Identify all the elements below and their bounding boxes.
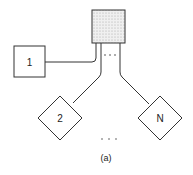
link-hub-to-node-n [120, 43, 149, 104]
caption: (a) [101, 153, 112, 163]
node-1: 1 [14, 46, 45, 77]
star-topology-diagram: 1 2 N (a) [0, 0, 193, 175]
link-hub-to-node-1 [45, 43, 96, 62]
node-n-label: N [156, 113, 163, 124]
hub-box [92, 10, 125, 43]
node-n: N [138, 96, 182, 140]
node-1-label: 1 [27, 57, 33, 68]
link-hub-to-node-2 [73, 43, 101, 103]
node-2: 2 [38, 96, 82, 140]
bottom-ellipsis [101, 138, 117, 140]
node-2-label: 2 [57, 113, 63, 124]
connector-ellipsis [104, 54, 116, 56]
